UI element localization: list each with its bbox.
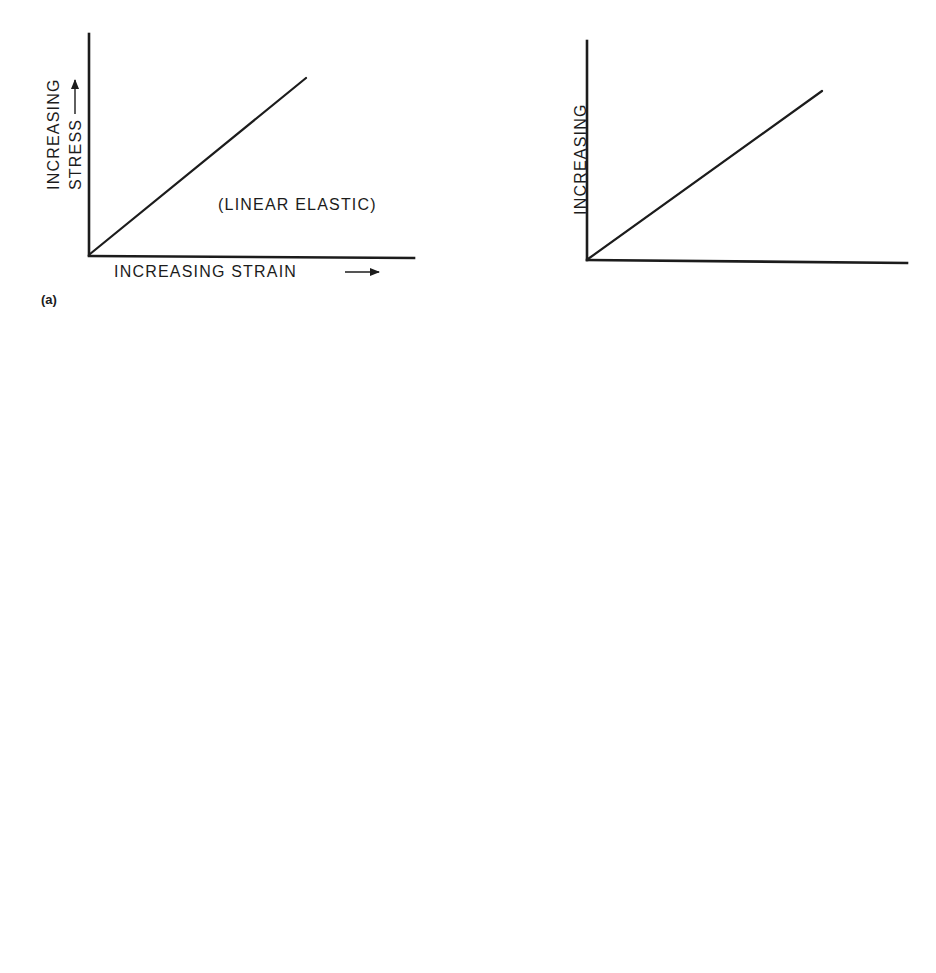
y-axis-label-line1: INCREASING: [45, 78, 62, 190]
y-axis-label-line2: STRESS: [67, 119, 84, 190]
panel-b: INCREASING: [572, 41, 907, 263]
x-axis: [89, 256, 414, 258]
panel-label: (a): [41, 292, 57, 307]
x-axis-label: INCREASING STRAIN: [114, 263, 297, 280]
stress-strain-figure: INCREASING STRESS (LINEAR ELASTIC) INCRE…: [0, 0, 936, 973]
linear-elastic-line: [90, 78, 306, 254]
y-axis-label-line1: INCREASING: [572, 103, 589, 215]
annotation-linear-elastic: (LINEAR ELASTIC): [218, 196, 377, 213]
panel-a: INCREASING STRESS (LINEAR ELASTIC) INCRE…: [41, 34, 414, 307]
stress-strain-rate-line: [588, 91, 822, 259]
x-axis: [587, 260, 907, 263]
